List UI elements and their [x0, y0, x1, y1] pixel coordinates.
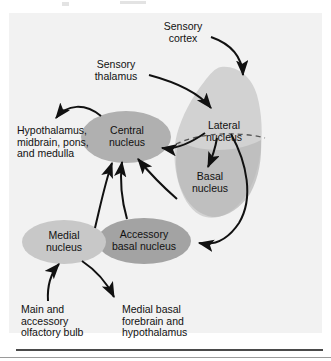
arrow-medial-to-forebrain	[82, 261, 114, 297]
arrow-basal-to-central	[138, 159, 177, 199]
figure-bottom-rule	[16, 349, 323, 351]
label-medial-nucleus: Medial nucleus	[34, 230, 94, 253]
label-lateral-nucleus: Lateral nucleus	[194, 120, 254, 143]
label-basal-nucleus: Basal nucleus	[181, 171, 239, 194]
label-accessory-basal-nucleus: Accessory basal nucleus	[92, 229, 196, 252]
arrow-accessory-basal-left-to-central	[95, 163, 112, 228]
scan-speck-top-left	[62, 2, 69, 6]
arrow-olfactory-bulb-to-medial	[48, 264, 59, 301]
label-forebrain-output: Medial basal forebrain and hypothalamus	[122, 304, 222, 339]
label-sensory-thalamus: Sensory thalamus	[83, 59, 149, 82]
amygdala-figure-panel: Sensory cortex Sensory thalamus Lateral …	[9, 13, 322, 333]
page-bottom-rule	[0, 357, 331, 358]
scan-speck-top-mid	[120, 1, 146, 4]
label-sensory-cortex: Sensory cortex	[152, 21, 214, 44]
label-olfactory-bulb: Main and accessory olfactory bulb	[21, 304, 117, 339]
label-hypothalamus-output: Hypothalamus, midbrain, pons, and medull…	[17, 125, 121, 160]
arrow-accessory-basal-to-central	[121, 162, 127, 219]
amygdala-diagram	[9, 13, 322, 333]
arrow-central-to-hypothalamus	[56, 107, 101, 118]
